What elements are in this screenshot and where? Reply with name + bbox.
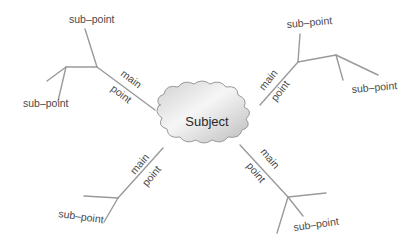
sub-line	[84, 196, 118, 198]
sub-line	[298, 55, 336, 62]
subject-cloud: Subject	[157, 81, 250, 143]
branch-lower-left: sub–point main point	[58, 148, 163, 225]
branch-upper-left: sub–point sub–point main point	[23, 13, 155, 110]
sub-line	[104, 198, 118, 222]
sub-point-label: sub–point	[58, 207, 105, 225]
sub-line	[277, 197, 288, 233]
sub-line	[288, 193, 326, 197]
main-point-label: main	[258, 146, 282, 171]
sub-line	[298, 34, 300, 62]
sub-point-label: sub–point	[351, 79, 397, 95]
branch-lower-right: sub–point main point	[240, 145, 339, 233]
main-point-label: point	[244, 160, 268, 185]
sub-line	[336, 55, 378, 75]
sub-line	[288, 197, 303, 216]
sub-point-label: sub–point	[69, 13, 115, 25]
sub-point-label: sub–point	[286, 14, 332, 30]
sub-line	[85, 29, 97, 67]
sub-line	[336, 55, 343, 80]
mind-map-diagram: sub–point sub–point main point sub–point…	[0, 0, 413, 235]
subject-label: Subject	[185, 114, 229, 129]
cloud-shape	[157, 81, 250, 143]
sub-point-label: sub–point	[293, 215, 340, 233]
sub-point-label: sub–point	[23, 97, 69, 109]
branch-upper-right: sub–point sub–point main point	[256, 14, 398, 105]
main-point-label: point	[109, 82, 134, 105]
